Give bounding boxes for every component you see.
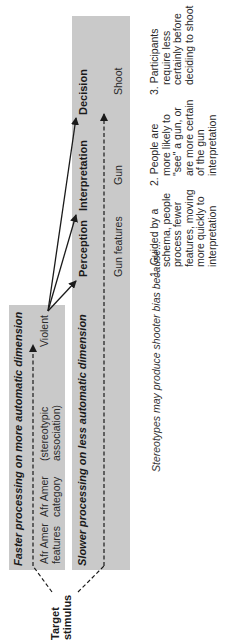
node2-line2: category [50, 476, 62, 517]
stage-perception: Perception [77, 220, 89, 277]
value-gun: Gun [112, 165, 124, 185]
connector-lines [0, 0, 233, 642]
value-shoot: Shoot [112, 68, 124, 95]
node3-line1: (stereotypic [38, 405, 50, 461]
reason-3-line3: certainly before [172, 6, 184, 95]
node1-line1: Afr Amer [38, 523, 50, 564]
stimulus-to-fast-line [33, 566, 52, 592]
fast-path-title: Faster processing on more automatic dime… [12, 312, 24, 566]
value-gun-features: Gun features [112, 216, 124, 277]
reason-2-line5: of the gun [195, 100, 207, 186]
reason-3-line4: deciding to shoot [184, 6, 196, 95]
fast-node-afr-amer-features: Afr Amer features [38, 523, 62, 564]
violent-to-decision-arrow [48, 118, 76, 311]
reason-2: 2. People are more likely to "see" a gun… [149, 100, 218, 186]
fast-node-violent: Violent [38, 315, 50, 347]
fast-node-afr-amer-category: Afr Amer category [38, 476, 62, 517]
stimulus-label-line2: stimulus [61, 595, 73, 640]
reason-1-line5: more quickly to [195, 189, 207, 277]
stage-interpretation: Interpretation [77, 140, 89, 211]
reason-1-line1: 1. Guided by a [149, 189, 161, 277]
slow-path-title: Slower processing on less automatic dime… [76, 314, 88, 566]
reason-1-line6: interpretation [207, 189, 219, 277]
node3-line2: association) [50, 405, 62, 461]
reason-3: 3. Participants require less certainly b… [149, 6, 195, 95]
reason-2-line6: interpretation [207, 100, 219, 186]
node2-line1: Afr Amer [38, 476, 50, 517]
reason-2-line1: 2. People are [149, 100, 161, 186]
stimulus-to-slow-line [78, 566, 104, 592]
reason-1: 1. Guided by a schema, people process fe… [149, 189, 218, 277]
target-stimulus-label: Target stimulus [49, 595, 73, 640]
shooter-bias-diagram: Target stimulus Faster processing on mor… [0, 0, 233, 642]
reason-1-line3: process fewer [172, 189, 184, 277]
reason-2-line3: "see" a gun, or [172, 100, 184, 186]
node1-line2: features [50, 523, 62, 564]
fast-node-stereotypic-association: (stereotypic association) [38, 405, 62, 461]
reason-3-line1: 3. Participants [149, 6, 161, 95]
stage-decision: Decision [77, 69, 89, 115]
stimulus-label-line1: Target [49, 595, 61, 640]
